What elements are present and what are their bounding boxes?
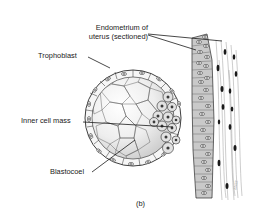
svg-text:ZZIZZ: ZZIZZ bbox=[233, 179, 239, 190]
endometrium-label-line2: uterus (sectioned) bbox=[80, 33, 148, 42]
endometrium-label: Endometrium of uterus (sectioned) bbox=[80, 24, 148, 41]
trophoblast-leader bbox=[88, 57, 110, 68]
inner-cell-mass-label: Inner cell mass bbox=[21, 117, 71, 126]
endometrium-leader-1 bbox=[148, 34, 222, 41]
blastocoel-label: Blastocoel bbox=[50, 168, 84, 177]
trophoblast-label: Trophoblast bbox=[38, 52, 77, 61]
endometrium-epithelium bbox=[192, 34, 214, 198]
figure-caption: (b) bbox=[136, 199, 145, 208]
stroma-fibers bbox=[216, 40, 242, 200]
endometrium-leader-2 bbox=[148, 35, 196, 50]
blastocyst-diagram: ZZIZZ bbox=[0, 0, 263, 216]
